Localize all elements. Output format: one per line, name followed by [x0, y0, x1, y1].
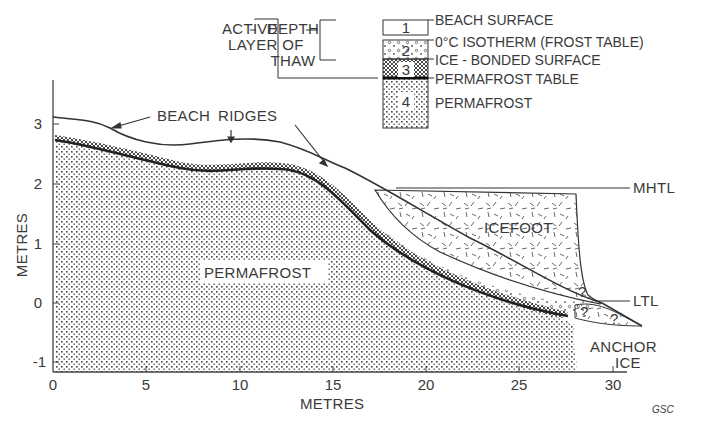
- legend-unit-4-label: PERMAFROST: [435, 95, 533, 111]
- x-tick-25: 25: [511, 376, 528, 393]
- icefoot-label: ICEFOOT: [484, 219, 553, 236]
- legend-unit-3-label: ICE - BONDED SURFACE: [435, 52, 601, 68]
- legend-unit-3-number: 3: [402, 61, 411, 78]
- legend-unit-permafrost-table-label: PERMAFROST TABLE: [435, 71, 579, 87]
- legend-depth-3: THAW: [271, 52, 316, 69]
- legend-unit-4-number: 4: [402, 93, 411, 110]
- legend-unit-2-number: 2: [402, 42, 411, 59]
- unknown-mark-3: ?: [610, 310, 619, 327]
- unknown-mark-2: ?: [580, 303, 589, 320]
- ltl-label: LTL: [633, 292, 659, 309]
- legend-depth-2: OF: [282, 36, 303, 53]
- legend-unit-1-label: BEACH SURFACE: [435, 12, 553, 28]
- y-tick-2: 2: [34, 175, 42, 192]
- ice-label: ICE: [615, 354, 641, 371]
- credit-label: GSC: [652, 404, 674, 415]
- beach-label: BEACH: [157, 107, 210, 124]
- x-tick-0: 0: [49, 376, 57, 393]
- legend-unit-2-label: 0°C ISOTHERM (FROST TABLE): [435, 34, 644, 50]
- x-tick-15: 15: [325, 376, 342, 393]
- text-layer: ACTIVE LAYER DEPTH OF THAW 1 2 3 4 BEACH…: [0, 0, 703, 428]
- x-tick-10: 10: [232, 376, 249, 393]
- x-tick-20: 20: [418, 376, 435, 393]
- y-tick-minus-1: -1: [33, 353, 46, 370]
- legend-unit-1-number: 1: [402, 19, 411, 36]
- ridges-label: RIDGES: [218, 107, 277, 124]
- unknown-mark-1: ?: [578, 283, 587, 300]
- anchor-label: ANCHOR: [590, 338, 657, 355]
- x-axis-label: METRES: [300, 395, 364, 412]
- mhtl-label: MHTL: [633, 179, 675, 196]
- x-tick-5: 5: [142, 376, 150, 393]
- y-tick-0: 0: [34, 294, 42, 311]
- permafrost-label: PERMAFROST: [204, 264, 311, 281]
- x-tick-30: 30: [605, 376, 622, 393]
- y-tick-1: 1: [34, 235, 42, 252]
- y-tick-3: 3: [34, 115, 42, 132]
- legend-active-layer-2: LAYER: [228, 36, 278, 53]
- legend-depth-1: DEPTH: [267, 20, 319, 37]
- y-axis-label: METRES: [13, 213, 30, 277]
